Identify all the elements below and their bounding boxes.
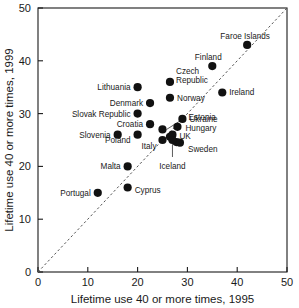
y-tick-label-0: 0 bbox=[25, 266, 31, 278]
point-label-poland: Poland bbox=[105, 136, 131, 145]
point-label-slovak-republic: Slovak Republic bbox=[72, 110, 131, 119]
point-label-denmark: Denmark bbox=[110, 99, 144, 108]
data-point-norway[interactable] bbox=[166, 94, 174, 102]
data-point-faroe-islands[interactable] bbox=[243, 41, 251, 49]
data-point-poland[interactable] bbox=[134, 131, 142, 139]
point-label-italy: Italy bbox=[141, 142, 157, 151]
x-tick-label-30: 30 bbox=[181, 276, 193, 288]
point-label-croatia: Croatia bbox=[117, 120, 144, 129]
point-label-portugal: Portugal bbox=[60, 189, 91, 198]
data-point-portugal[interactable] bbox=[94, 189, 102, 197]
point-label-cyprus: Cyprus bbox=[135, 186, 161, 195]
point-label-sweden: Sweden bbox=[188, 145, 218, 154]
x-axis-title: Lifetime use 40 or more times, 1995 bbox=[71, 293, 254, 305]
y-tick-label-20: 20 bbox=[19, 160, 31, 172]
point-label-lithuania: Lithuania bbox=[97, 83, 131, 92]
data-point-czech-republic[interactable] bbox=[166, 78, 174, 86]
point-label-uk: UK bbox=[179, 132, 191, 141]
data-point-ireland[interactable] bbox=[218, 88, 226, 96]
data-point-cyprus[interactable] bbox=[124, 183, 132, 191]
data-point-italy[interactable] bbox=[158, 136, 166, 144]
point-label-finland: Finland bbox=[195, 53, 222, 62]
y-tick-label-50: 50 bbox=[19, 2, 31, 14]
data-points-group bbox=[94, 41, 252, 197]
data-point-finland[interactable] bbox=[208, 62, 216, 70]
point-label-estonia: Estonia bbox=[189, 113, 217, 122]
data-point-estonia[interactable] bbox=[158, 125, 166, 133]
point-label-malta: Malta bbox=[101, 162, 121, 171]
point-label-czech-republic: CzechRepublic bbox=[176, 67, 208, 86]
data-point-slovak-republic[interactable] bbox=[134, 110, 142, 118]
x-tick-label-10: 10 bbox=[82, 276, 94, 288]
point-label-iceland: Iceland bbox=[159, 162, 186, 171]
data-point-malta[interactable] bbox=[124, 162, 132, 170]
point-label-faroe-islands: Faroe Islands bbox=[220, 32, 270, 41]
x-tick-label-50: 50 bbox=[281, 276, 293, 288]
point-labels-group: Faroe IslandsFinlandIrelandCzechRepublic… bbox=[60, 32, 270, 198]
data-point-croatia[interactable] bbox=[146, 120, 154, 128]
data-point-ukraine[interactable] bbox=[178, 115, 186, 123]
x-tick-label-40: 40 bbox=[231, 276, 243, 288]
y-tick-label-40: 40 bbox=[19, 55, 31, 67]
y-axis-title: Lifetime use 40 or more times, 1999 bbox=[3, 48, 15, 231]
data-point-hungary[interactable] bbox=[173, 123, 181, 131]
data-point-lithuania[interactable] bbox=[134, 83, 142, 91]
point-label-norway: Norway bbox=[177, 94, 206, 103]
y-tick-label-10: 10 bbox=[19, 213, 31, 225]
data-point-denmark[interactable] bbox=[146, 99, 154, 107]
y-tick-label-30: 30 bbox=[19, 108, 31, 120]
x-tick-label-0: 0 bbox=[35, 276, 41, 288]
data-point-iceland[interactable] bbox=[168, 136, 176, 144]
scatter-plot: Faroe IslandsFinlandIrelandCzechRepublic… bbox=[0, 0, 299, 308]
point-label-ireland: Ireland bbox=[229, 88, 254, 97]
chart-container: Faroe IslandsFinlandIrelandCzechRepublic… bbox=[0, 0, 299, 308]
x-tick-label-20: 20 bbox=[131, 276, 143, 288]
